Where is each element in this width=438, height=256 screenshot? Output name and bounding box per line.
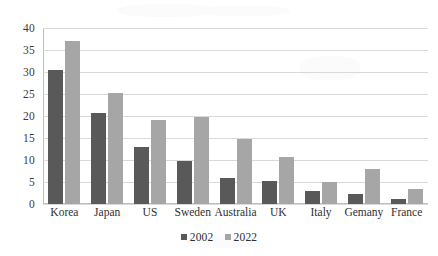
bar-france-2002[interactable] <box>391 199 406 204</box>
x-axis-tick-label: US <box>129 206 172 224</box>
bar-group <box>257 28 300 204</box>
y-axis-tick-label: 35 <box>23 44 35 56</box>
bar-japan-2022[interactable] <box>108 93 123 204</box>
y-axis-tick-label: 20 <box>23 110 35 122</box>
bar-group <box>43 28 86 204</box>
bar-italy-2002[interactable] <box>305 191 320 204</box>
bar-italy-2022[interactable] <box>322 182 337 204</box>
bar-australia-2002[interactable] <box>220 178 235 204</box>
bar-chart: 4035302520151050 KoreaJapanUSSwedenAustr… <box>0 0 438 256</box>
legend-label: 2002 <box>190 231 214 243</box>
y-axis-tick-label: 30 <box>23 66 35 78</box>
y-axis-tick-label: 10 <box>23 154 35 166</box>
y-axis-tick-label: 0 <box>29 198 35 210</box>
bar-japan-2002[interactable] <box>91 113 106 204</box>
bar-group <box>171 28 214 204</box>
plot-area <box>43 28 428 204</box>
bars-layer <box>43 28 428 204</box>
legend-swatch-icon <box>225 234 231 240</box>
watermark-smudge <box>118 4 214 17</box>
x-axis: KoreaJapanUSSwedenAustraliaUKItalyGemany… <box>43 206 428 224</box>
y-axis-tick-label: 5 <box>29 176 35 188</box>
bar-us-2002[interactable] <box>134 147 149 204</box>
legend-label: 2022 <box>234 231 258 243</box>
bar-sweden-2002[interactable] <box>177 161 192 204</box>
bar-australia-2022[interactable] <box>237 139 252 204</box>
y-axis: 4035302520151050 <box>0 28 40 204</box>
y-axis-tick-label: 40 <box>23 22 35 34</box>
legend-item-2022[interactable]: 2022 <box>225 231 258 243</box>
chart-legend: 20022022 <box>0 231 438 243</box>
y-axis-tick-label: 15 <box>23 132 35 144</box>
legend-item-2002[interactable]: 2002 <box>181 231 214 243</box>
x-axis-tick-label: Korea <box>43 206 86 224</box>
bar-uk-2002[interactable] <box>262 181 277 204</box>
bar-korea-2002[interactable] <box>48 70 63 204</box>
bar-sweden-2022[interactable] <box>194 117 209 204</box>
watermark-smudge <box>200 6 290 16</box>
bar-uk-2022[interactable] <box>279 157 294 204</box>
x-axis-tick-label: Sweden <box>171 206 214 224</box>
x-axis-tick-label: Italy <box>300 206 343 224</box>
bar-group <box>342 28 385 204</box>
x-axis-tick-label: Gemany <box>342 206 385 224</box>
bar-gemany-2022[interactable] <box>365 169 380 204</box>
bar-group <box>300 28 343 204</box>
y-axis-tick-label: 25 <box>23 88 35 100</box>
bar-france-2022[interactable] <box>408 189 423 204</box>
legend-swatch-icon <box>181 234 187 240</box>
bar-gemany-2002[interactable] <box>348 194 363 204</box>
bar-korea-2022[interactable] <box>65 41 80 204</box>
x-axis-tick-label: Australia <box>214 206 257 224</box>
gridline <box>43 204 428 205</box>
bar-group <box>129 28 172 204</box>
bar-group <box>86 28 129 204</box>
bar-group <box>385 28 428 204</box>
bar-group <box>214 28 257 204</box>
x-axis-tick-label: Japan <box>86 206 129 224</box>
x-axis-tick-label: France <box>385 206 428 224</box>
x-axis-tick-label: UK <box>257 206 300 224</box>
bar-us-2022[interactable] <box>151 120 166 204</box>
